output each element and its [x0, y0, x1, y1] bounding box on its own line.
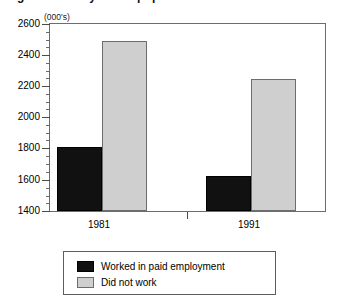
y-tick-minor	[46, 140, 50, 141]
y-tick-minor	[46, 32, 50, 33]
y-tick-minor	[46, 47, 50, 48]
y-tick-minor	[46, 63, 50, 64]
bar-1991-did-not-work[interactable]	[251, 79, 296, 211]
legend-swatch-light-icon	[77, 277, 94, 288]
y-tick-label: 2000	[6, 112, 40, 122]
x-tick-label-1981: 1981	[64, 219, 134, 230]
x-axis-group-separator	[187, 212, 188, 219]
y-tick-minor	[46, 40, 50, 41]
y-tick-minor	[46, 172, 50, 173]
bar-1981-worked[interactable]	[57, 147, 102, 211]
bar-1981-did-not-work[interactable]	[102, 41, 147, 211]
y-tick-minor	[46, 94, 50, 95]
legend: Worked in paid employment Did not work	[63, 251, 276, 295]
legend-label: Did not work	[101, 277, 157, 288]
y-tick-minor	[46, 125, 50, 126]
y-tick-major	[42, 148, 50, 149]
y-tick-major	[42, 211, 50, 212]
y-tick-label: 1400	[6, 206, 40, 216]
y-tick-label: 1600	[6, 175, 40, 185]
y-tick-minor	[46, 196, 50, 197]
legend-label: Worked in paid employment	[101, 261, 225, 272]
y-tick-minor	[46, 188, 50, 189]
y-tick-major	[42, 24, 50, 25]
legend-item-did-not-work[interactable]: Did not work	[77, 276, 157, 289]
y-tick-minor	[46, 133, 50, 134]
y-tick-minor	[46, 109, 50, 110]
y-tick-label: 2400	[6, 50, 40, 60]
y-tick-major	[42, 180, 50, 181]
y-tick-label: 2200	[6, 81, 40, 91]
x-tick-label-1991: 1991	[214, 219, 284, 230]
y-tick-minor	[46, 102, 50, 103]
y-tick-minor	[46, 71, 50, 72]
y-tick-minor	[46, 203, 50, 204]
y-tick-minor	[46, 78, 50, 79]
y-tick-label: 2600	[6, 19, 40, 29]
bar-1991-worked[interactable]	[206, 176, 251, 211]
legend-item-worked[interactable]: Worked in paid employment	[77, 260, 225, 273]
legend-swatch-dark-icon	[77, 261, 94, 272]
y-tick-major	[42, 117, 50, 118]
y-tick-major	[42, 86, 50, 87]
y-tick-label: 1800	[6, 143, 40, 153]
y-tick-major	[42, 55, 50, 56]
y-tick-minor	[46, 156, 50, 157]
y-tick-minor	[46, 164, 50, 165]
